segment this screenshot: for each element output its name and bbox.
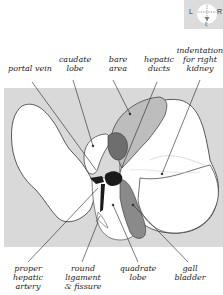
label-hepatic-ducts: hepatic ducts — [140, 55, 178, 73]
label-proper-hepatic-artery: proper hepatic artery — [6, 264, 50, 291]
caudate-dark-region — [108, 133, 127, 160]
liver-diagram — [0, 0, 223, 295]
label-gall-bladder: gall bladder — [170, 264, 210, 282]
label-quadrate-lobe: quadrate lobe — [118, 264, 158, 282]
label-bare-area: bare area — [103, 55, 133, 73]
label-caudate-lobe: caudate lobe — [55, 55, 95, 73]
label-round-ligament-fissure: round ligament & fissure — [60, 264, 106, 291]
label-portal-vein: portal vein — [4, 64, 56, 73]
label-indentation-right-kidney: indentation for right kidney — [176, 46, 223, 73]
